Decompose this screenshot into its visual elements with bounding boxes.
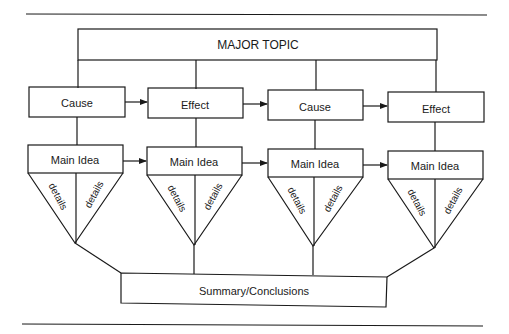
bottom-rule [22, 324, 483, 326]
top-rule [26, 14, 487, 15]
effect-label-1: Effect [181, 99, 209, 111]
effect-label-2: Effect [422, 103, 450, 115]
details-label: details [165, 183, 188, 214]
cause-label-1: Cause [61, 97, 93, 109]
cause-label-2: Cause [299, 101, 331, 113]
details-label: details [82, 179, 105, 210]
details-label: details [405, 187, 428, 218]
cause-effect-diagram: MAJOR TOPIC Cause Effect Cause Effect Ma… [0, 0, 509, 334]
main-idea-label-1: Main Idea [51, 154, 100, 166]
summary-label: Summary/Conclusions [199, 285, 310, 297]
details-triangle-3 [268, 177, 363, 246]
main-idea-label-3: Main Idea [291, 158, 340, 170]
details-label: details [321, 183, 344, 214]
main-idea-label-4: Main Idea [411, 160, 460, 172]
details-label: details [46, 181, 69, 212]
main-idea-label-2: Main Idea [170, 156, 219, 168]
details-label: details [441, 185, 464, 216]
major-topic-label: MAJOR TOPIC [217, 38, 299, 52]
details-label: details [285, 185, 308, 216]
details-label: details [201, 181, 224, 212]
